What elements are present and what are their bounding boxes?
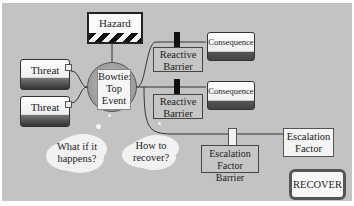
consequence-label: Consequence bbox=[208, 86, 253, 96]
consequence-node[interactable]: Consequence bbox=[207, 81, 255, 110]
escalation-factor-line-1: Escalation bbox=[284, 131, 333, 143]
reactive-barrier-node[interactable]: Reactive Barrier bbox=[153, 47, 203, 72]
escalation-barrier-line-2: Factor Barrier bbox=[202, 160, 258, 184]
reactive-barrier-line-1: Reactive bbox=[154, 96, 202, 108]
recover-button[interactable]: RECOVER bbox=[289, 169, 346, 200]
reactive-barrier-node[interactable]: Reactive Barrier bbox=[153, 94, 203, 119]
cloud-line-1: What if it bbox=[52, 141, 102, 153]
reactive-barrier-line-2: Barrier bbox=[154, 108, 202, 120]
cloud-line-1: How to bbox=[128, 140, 174, 152]
escalation-barrier-post-icon bbox=[228, 128, 237, 146]
hazard-label: Hazard bbox=[89, 17, 141, 29]
escalation-barrier-line-1: Escalation bbox=[202, 148, 258, 160]
top-event-line-1: Bowtie: bbox=[98, 71, 130, 83]
top-event-node[interactable]: Bowtie: Top Event bbox=[87, 62, 137, 112]
thought-dot-icon bbox=[158, 122, 161, 125]
threat-label: Threat bbox=[31, 64, 60, 76]
top-event-line-2: Top bbox=[98, 83, 130, 95]
escalation-factor-barrier-node[interactable]: Escalation Factor Barrier bbox=[201, 145, 259, 173]
cloud-line-2: happens? bbox=[52, 153, 102, 165]
thought-dot-icon bbox=[108, 114, 111, 117]
threat-label: Threat bbox=[31, 101, 60, 113]
connector-handle-icon bbox=[65, 64, 72, 71]
hazard-node[interactable]: Hazard bbox=[87, 12, 143, 44]
escalation-factor-node[interactable]: Escalation Factor bbox=[283, 128, 334, 157]
reactive-barrier-line-1: Reactive bbox=[154, 49, 202, 61]
thought-cloud-what-if: What if it happens? bbox=[52, 137, 102, 169]
hazard-stripes-icon bbox=[89, 33, 141, 42]
connector-handle-icon bbox=[65, 101, 72, 108]
recover-label: RECOVER bbox=[293, 179, 342, 190]
top-event-line-3: Event bbox=[98, 95, 130, 107]
threat-node[interactable]: Threat bbox=[20, 96, 70, 127]
consequence-label: Consequence bbox=[208, 37, 253, 47]
top-event-label-box: Bowtie: Top Event bbox=[97, 69, 131, 110]
thought-cloud-how-to-recover: How to recover? bbox=[128, 138, 174, 166]
cloud-line-2: recover? bbox=[128, 152, 174, 164]
reactive-barrier-line-2: Barrier bbox=[154, 61, 202, 73]
barrier-post-icon bbox=[174, 79, 180, 94]
consequence-node[interactable]: Consequence bbox=[207, 32, 255, 61]
escalation-factor-line-2: Factor bbox=[284, 143, 333, 155]
threat-node[interactable]: Threat bbox=[20, 59, 70, 90]
barrier-post-icon bbox=[174, 32, 180, 47]
thought-dot-icon bbox=[96, 124, 101, 129]
